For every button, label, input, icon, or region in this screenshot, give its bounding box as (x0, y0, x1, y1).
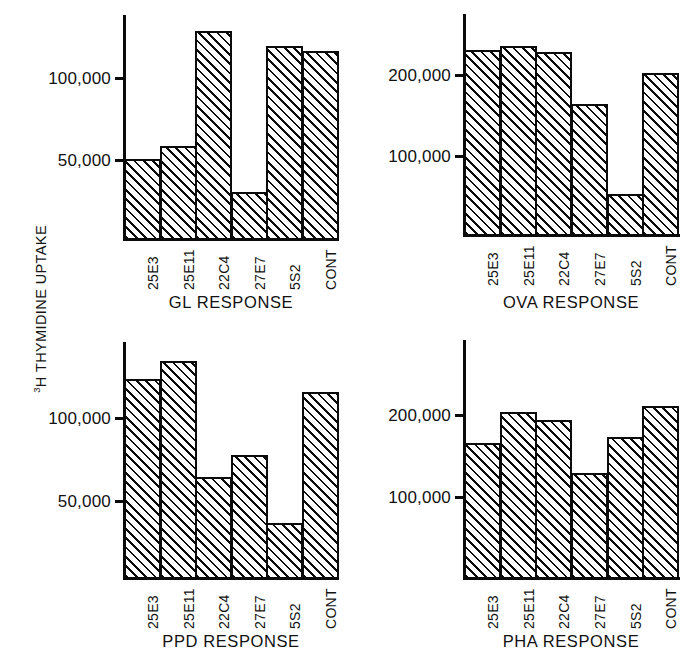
y-axis-tick-label: 200,000 (365, 67, 451, 84)
bar-ppd-cont (302, 392, 339, 579)
bar-ppd-27e7 (231, 455, 268, 579)
x-axis-category-label: 22C4 (557, 251, 571, 286)
x-axis-category-label: 25E11 (522, 588, 536, 629)
bar-pha-27e7 (571, 473, 608, 579)
bar-gl-25e3 (124, 159, 161, 240)
y-axis-tick (115, 77, 126, 80)
x-axis-category-label: 25E3 (486, 595, 500, 629)
bar-pha-5s2 (607, 437, 644, 579)
x-axis-category-label: 25E3 (146, 256, 160, 290)
bar-ppd-22c4 (195, 477, 232, 579)
bar-ova-25e11 (500, 46, 537, 236)
x-axis-category-label: 25E11 (182, 588, 196, 629)
bar-gl-5s2 (266, 46, 303, 240)
y-axis-tick-label: 50,000 (25, 152, 111, 169)
y-axis-label-text: H THYMIDINE UPTAKE (33, 225, 49, 387)
x-axis-category-label: 25E3 (146, 595, 160, 629)
x-axis-category-label: 5S2 (629, 260, 643, 286)
x-axis-category-label: CONT (664, 245, 678, 286)
figure-canvas: 3H THYMIDINE UPTAKE 100,00050,00025E325E… (0, 0, 691, 663)
x-axis-category-label: 27E7 (253, 256, 267, 290)
x-axis-category-label: 22C4 (557, 594, 571, 629)
x-axis-category-label: 22C4 (217, 594, 231, 629)
x-axis-category-label: 5S2 (288, 264, 302, 290)
bar-ppd-5s2 (266, 523, 303, 579)
x-axis-category-label: 27E7 (593, 252, 607, 286)
y-axis-label-superscript: 3 (31, 387, 42, 393)
x-axis-category-label: 25E3 (486, 252, 500, 286)
y-axis-tick-label: 100,000 (365, 489, 451, 506)
y-axis-label: 3H THYMIDINE UPTAKE (31, 179, 49, 439)
bar-gl-cont (302, 51, 339, 240)
bar-ova-cont (642, 73, 679, 236)
x-axis-category-label: 5S2 (629, 603, 643, 629)
y-axis-tick-label: 100,000 (365, 148, 451, 165)
y-axis-tick (455, 414, 466, 417)
bar-pha-cont (642, 406, 679, 579)
chart-title-ova: OVA RESPONSE (431, 294, 691, 311)
x-axis-category-label: 27E7 (593, 595, 607, 629)
x-axis-category-label: 22C4 (217, 255, 231, 290)
bar-gl-22c4 (195, 31, 232, 240)
bar-pha-22c4 (535, 420, 572, 579)
bar-ova-5s2 (607, 194, 644, 236)
y-axis-tick-label: 100,000 (25, 410, 111, 427)
x-axis-category-label: 5S2 (288, 603, 302, 629)
bar-ova-27e7 (571, 104, 608, 236)
bar-ppd-25e11 (160, 361, 197, 579)
chart-title-ppd: PPD RESPONSE (91, 633, 371, 650)
y-axis-tick-label: 100,000 (25, 70, 111, 87)
x-axis-category-label: CONT (324, 588, 338, 629)
bar-pha-25e3 (464, 443, 501, 579)
bar-ova-22c4 (535, 52, 572, 236)
bar-ova-25e3 (464, 50, 501, 236)
y-axis-tick-label: 200,000 (365, 407, 451, 424)
y-axis-tick-label: 50,000 (25, 493, 111, 510)
x-axis-category-label: CONT (324, 249, 338, 290)
x-axis-category-label: 25E11 (182, 249, 196, 290)
bar-gl-25e11 (160, 146, 197, 240)
x-axis-category-label: 27E7 (253, 595, 267, 629)
chart-title-gl: GL RESPONSE (91, 294, 371, 311)
chart-title-pha: PHA RESPONSE (431, 633, 691, 650)
bar-gl-27e7 (231, 192, 268, 240)
bar-pha-25e11 (500, 412, 537, 579)
x-axis-category-label: CONT (664, 588, 678, 629)
x-axis-category-label: 25E11 (522, 245, 536, 286)
bar-ppd-25e3 (124, 379, 161, 579)
